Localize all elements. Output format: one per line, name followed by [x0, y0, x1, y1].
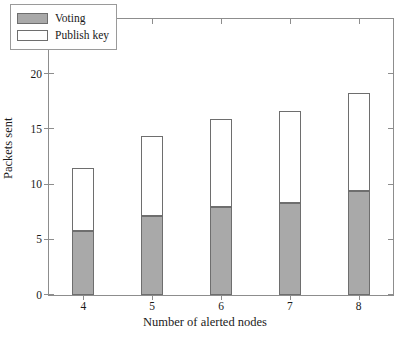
x-axis-title: Number of alerted nodes [0, 316, 410, 329]
y-tick-mark-inner [49, 128, 54, 129]
y-tick-mark-inner [49, 73, 54, 74]
legend-label-voting: Voting [55, 13, 85, 25]
x-tick-label: 5 [149, 301, 155, 313]
x-tick-label: 8 [356, 301, 362, 313]
plot-area: 0510152025 45678 [48, 18, 394, 296]
y-tick-mark-inner [49, 294, 54, 295]
chart-figure: 0510152025 45678 Packets sent Number of … [0, 0, 410, 339]
y-tick-label: 0 [36, 289, 42, 301]
x-tick-label: 4 [81, 301, 87, 313]
y-tick-mark-inner [49, 239, 54, 240]
bar-segment-voting [141, 216, 163, 295]
bar-segment-publish-key [348, 93, 370, 191]
legend-item-voting: Voting [17, 10, 109, 27]
y-tick-label: 15 [31, 124, 43, 136]
bar-group [141, 19, 163, 295]
legend-label-publish-key: Publish key [55, 30, 109, 42]
y-tick-mark-right [388, 184, 393, 185]
y-axis-title: Packets sent [2, 78, 15, 218]
bar-group [210, 19, 232, 295]
y-tick-mark-right [388, 73, 393, 74]
legend-swatch-publish-key-icon [17, 30, 48, 41]
y-tick-mark-right [388, 239, 393, 240]
y-tick-mark-right [388, 294, 393, 295]
legend-item-publish-key: Publish key [17, 27, 109, 44]
bar-segment-publish-key [210, 119, 232, 206]
bar-segment-publish-key [141, 136, 163, 215]
bar-segment-voting [72, 231, 94, 295]
bar-segment-voting [210, 207, 232, 295]
bar-group [348, 19, 370, 295]
bar-segment-voting [279, 203, 301, 295]
x-tick-label: 7 [287, 301, 293, 313]
y-tick-label: 10 [31, 179, 43, 191]
y-tick-mark-inner [49, 184, 54, 185]
y-tick-mark-right [388, 128, 393, 129]
x-tick-label: 6 [218, 301, 224, 313]
bar-group [72, 19, 94, 295]
bar-segment-publish-key [279, 111, 301, 204]
y-tick-label: 5 [36, 234, 42, 246]
legend-swatch-voting-icon [17, 13, 48, 24]
y-tick-label: 20 [31, 68, 43, 80]
bar-group [279, 19, 301, 295]
y-tick-mark-right [388, 18, 393, 19]
bar-segment-voting [348, 191, 370, 295]
bar-segment-publish-key [72, 168, 94, 231]
chart-legend: Voting Publish key [10, 4, 117, 50]
